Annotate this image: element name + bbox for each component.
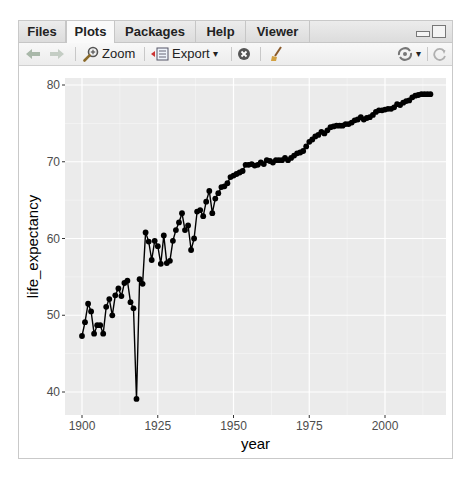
data-point <box>112 292 118 298</box>
data-point <box>173 227 179 233</box>
data-point <box>197 207 203 213</box>
zoom-button[interactable]: Zoom <box>83 45 135 63</box>
toolbar-divider <box>75 47 76 61</box>
plot-canvas: 4050607080 19001925195019752000 year lif… <box>19 66 452 458</box>
zoom-label: Zoom <box>102 45 135 63</box>
data-point <box>128 299 134 305</box>
x-axis: 19001925195019752000 <box>69 415 399 433</box>
x-tick-label: 1950 <box>220 419 247 433</box>
refresh-button[interactable] <box>433 45 447 63</box>
data-point <box>170 238 176 244</box>
export-menu-button[interactable]: Export ▾ <box>151 45 218 63</box>
data-point <box>225 180 231 186</box>
window-controls <box>416 25 446 38</box>
data-point <box>206 188 212 194</box>
data-point <box>88 309 94 315</box>
data-point <box>82 319 88 325</box>
data-point <box>188 247 194 253</box>
forward-button[interactable] <box>49 45 65 63</box>
toolbar-divider <box>260 47 261 61</box>
x-tick-label: 1975 <box>296 419 323 433</box>
zoom-magnifier-icon <box>83 46 99 62</box>
remove-plot-icon <box>237 47 251 61</box>
data-point <box>212 196 218 202</box>
arrow-right-icon <box>49 47 65 61</box>
tab-files[interactable]: Files <box>19 21 66 43</box>
x-axis-title: year <box>241 435 270 452</box>
x-tick-label: 2000 <box>372 419 399 433</box>
publish-button[interactable]: ▾ <box>397 45 421 63</box>
data-point <box>79 333 85 339</box>
data-point <box>167 258 173 264</box>
y-axis-title: life_expectancy <box>24 194 41 298</box>
life-expectancy-line-chart: 4050607080 19001925195019752000 year lif… <box>19 66 452 458</box>
plot-panel-background <box>65 78 446 415</box>
data-point <box>191 236 197 242</box>
export-icon <box>151 47 169 61</box>
refresh-icon <box>433 47 447 61</box>
tab-plots[interactable]: Plots <box>66 21 115 44</box>
x-tick-label: 1900 <box>69 419 96 433</box>
maximize-pane-button[interactable] <box>432 25 446 38</box>
tab-viewer[interactable]: Viewer <box>246 21 310 43</box>
data-point <box>209 210 215 216</box>
toolbar-divider <box>231 47 232 61</box>
data-point <box>91 331 97 337</box>
y-axis: 4050607080 <box>47 78 65 399</box>
data-point <box>158 261 164 267</box>
clear-all-plots-button[interactable] <box>269 45 283 63</box>
chevron-down-icon: ▾ <box>416 45 421 63</box>
data-point <box>125 278 131 284</box>
y-tick-label: 70 <box>47 155 61 169</box>
data-point <box>143 230 149 236</box>
data-point <box>106 296 112 302</box>
data-point <box>140 281 146 287</box>
data-point <box>185 223 191 229</box>
data-point <box>176 220 182 226</box>
tab-help[interactable]: Help <box>196 21 246 43</box>
data-point <box>152 238 158 244</box>
arrow-left-icon <box>25 47 41 61</box>
data-point <box>428 91 434 97</box>
data-point <box>103 304 109 310</box>
data-point <box>100 331 106 337</box>
toolbar-divider <box>144 47 145 61</box>
data-point <box>179 210 185 216</box>
x-tick-label: 1925 <box>144 419 171 433</box>
pane-tab-bar: Files Plots Packages Help Viewer <box>19 21 452 43</box>
data-point <box>240 168 246 174</box>
back-button[interactable] <box>25 45 41 63</box>
minimize-pane-button[interactable] <box>416 31 430 37</box>
remove-plot-button[interactable] <box>237 45 251 63</box>
export-label: Export <box>172 45 210 63</box>
broom-icon <box>269 46 283 62</box>
data-point <box>215 190 221 196</box>
data-point <box>109 312 115 318</box>
plots-pane: Files Plots Packages Help Viewer <box>18 20 453 459</box>
data-point <box>146 239 152 245</box>
data-point <box>161 233 167 239</box>
tab-packages[interactable]: Packages <box>115 21 196 43</box>
publish-icon <box>397 47 413 61</box>
data-point <box>116 286 122 292</box>
data-point <box>131 305 137 311</box>
data-point <box>203 199 209 205</box>
plots-toolbar: Zoom Export ▾ <box>19 43 452 66</box>
data-point <box>149 257 155 263</box>
data-point <box>119 293 125 299</box>
chevron-down-icon: ▾ <box>213 45 218 63</box>
data-point <box>155 243 161 249</box>
y-tick-label: 50 <box>47 308 61 322</box>
data-point <box>97 322 103 328</box>
data-point <box>134 396 140 402</box>
data-point <box>200 213 206 219</box>
toolbar-divider <box>427 47 428 61</box>
y-tick-label: 60 <box>47 232 61 246</box>
y-tick-label: 80 <box>47 78 61 92</box>
y-tick-label: 40 <box>47 385 61 399</box>
data-point <box>85 301 91 307</box>
